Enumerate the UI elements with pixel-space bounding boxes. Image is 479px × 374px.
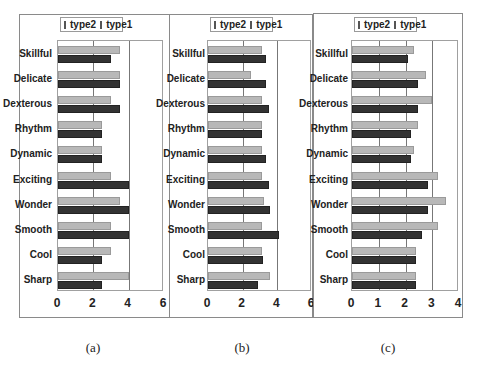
category-label: Dynamic xyxy=(163,148,205,159)
category-label: Wonder xyxy=(168,199,205,210)
bar-type1 xyxy=(58,247,111,255)
chart-caption: (b) xyxy=(234,340,249,356)
bar-type2 xyxy=(208,80,266,88)
x-tick-label: 4 xyxy=(124,296,131,310)
bar-type1 xyxy=(352,247,416,255)
category-label: Wonder xyxy=(311,199,348,210)
category-label: Rhythm xyxy=(311,123,348,134)
bar-type2 xyxy=(352,105,418,113)
legend: type2type1 xyxy=(60,17,123,32)
bar-type1 xyxy=(208,172,262,180)
bar-type1 xyxy=(58,197,120,205)
category-label: Dynamic xyxy=(306,148,348,159)
plot-area xyxy=(57,40,163,291)
plot-area xyxy=(207,40,311,291)
bar-type1 xyxy=(208,197,264,205)
bar-type1 xyxy=(208,247,262,255)
bar-type1 xyxy=(352,222,438,230)
bar-type1 xyxy=(58,121,102,129)
chart-caption: (a) xyxy=(86,340,100,356)
bar-type2 xyxy=(208,130,262,138)
legend-swatch-type1 xyxy=(100,21,102,29)
bar-type2 xyxy=(352,231,422,239)
bar-type1 xyxy=(58,272,129,280)
legend: type2type1 xyxy=(354,17,417,32)
x-tick-label: 2 xyxy=(401,296,408,310)
bar-type1 xyxy=(58,172,111,180)
x-tick-label: 0 xyxy=(54,296,61,310)
bar-type2 xyxy=(208,256,263,264)
x-tick-label: 2 xyxy=(89,296,96,310)
legend-label-type2: type2 xyxy=(70,19,96,30)
bar-type2 xyxy=(208,155,266,163)
bar-type1 xyxy=(208,96,262,104)
bar-type2 xyxy=(208,105,269,113)
bar-type2 xyxy=(58,206,129,214)
category-label: Dexterous xyxy=(3,98,52,109)
category-label: Delicate xyxy=(310,73,348,84)
bar-type1 xyxy=(58,71,120,79)
legend-label-type2: type2 xyxy=(220,19,246,30)
bar-type1 xyxy=(58,222,111,230)
category-label: Sharp xyxy=(177,274,205,285)
legend-swatch-type1 xyxy=(394,21,396,29)
category-label: Skillful xyxy=(19,48,52,59)
legend-label-type1: type1 xyxy=(256,19,282,30)
gridline xyxy=(129,41,130,290)
bar-type1 xyxy=(58,46,120,54)
bar-type1 xyxy=(58,96,111,104)
bar-type2 xyxy=(352,281,416,289)
bar-type2 xyxy=(352,80,418,88)
bar-type2 xyxy=(58,130,102,138)
bar-type2 xyxy=(58,105,120,113)
bar-type1 xyxy=(208,121,262,129)
legend-swatch-type2 xyxy=(358,21,360,29)
legend-label-type1: type1 xyxy=(400,19,426,30)
bar-type2 xyxy=(208,55,266,63)
bar-type1 xyxy=(58,146,102,154)
category-label: Smooth xyxy=(15,224,52,235)
category-label: Cool xyxy=(326,249,348,260)
chart-caption: (c) xyxy=(381,340,395,356)
bar-type1 xyxy=(208,272,270,280)
x-tick-label: 0 xyxy=(204,296,211,310)
category-label: Skillful xyxy=(172,48,205,59)
bar-type1 xyxy=(208,46,262,54)
bar-type2 xyxy=(58,155,102,163)
bar-type2 xyxy=(352,181,428,189)
x-tick-label: 4 xyxy=(455,296,462,310)
bar-type2 xyxy=(58,181,129,189)
bar-type2 xyxy=(208,206,270,214)
category-label: Exciting xyxy=(13,174,52,185)
bar-type2 xyxy=(58,55,111,63)
bar-type1 xyxy=(352,46,414,54)
category-label: Cool xyxy=(30,249,52,260)
bar-type2 xyxy=(352,256,416,264)
bar-type2 xyxy=(208,181,269,189)
x-tick-label: 4 xyxy=(273,296,280,310)
bar-type1 xyxy=(208,146,262,154)
legend-label-type1: type1 xyxy=(106,19,132,30)
category-label: Rhythm xyxy=(15,123,52,134)
bar-type1 xyxy=(352,71,426,79)
bar-type1 xyxy=(352,197,446,205)
category-label: Smooth xyxy=(168,224,205,235)
bar-type1 xyxy=(352,272,416,280)
category-label: Wonder xyxy=(15,199,52,210)
plot-area xyxy=(351,40,458,291)
legend-label-type2: type2 xyxy=(364,19,390,30)
category-label: Dynamic xyxy=(10,148,52,159)
category-label: Dexterous xyxy=(156,98,205,109)
category-label: Smooth xyxy=(311,224,348,235)
bar-type1 xyxy=(208,222,262,230)
legend-swatch-type2 xyxy=(214,21,216,29)
legend: type2type1 xyxy=(210,17,273,32)
category-label: Dexterous xyxy=(299,98,348,109)
bar-type2 xyxy=(58,281,102,289)
category-label: Exciting xyxy=(166,174,205,185)
category-label: Sharp xyxy=(320,274,348,285)
bar-type2 xyxy=(352,130,411,138)
category-label: Sharp xyxy=(24,274,52,285)
category-label: Cool xyxy=(183,249,205,260)
gridline xyxy=(432,41,433,290)
